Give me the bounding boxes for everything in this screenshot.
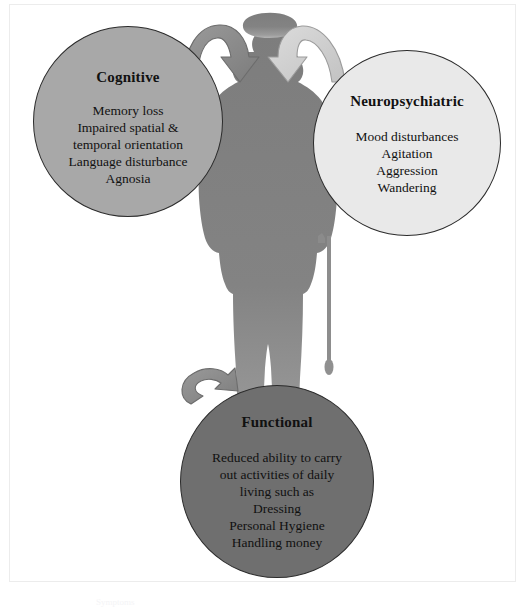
bubble-cognitive-item: temporal orientation bbox=[69, 136, 188, 153]
bubble-neuropsychiatric[interactable]: Neuropsychiatric Mood disturbances Agita… bbox=[313, 50, 501, 236]
bubble-cognitive-title: Cognitive bbox=[96, 69, 159, 86]
bubble-neuropsychiatric-item: Aggression bbox=[355, 162, 458, 179]
bubble-cognitive-item: Impaired spatial & bbox=[69, 119, 188, 136]
bubble-neuropsychiatric-title: Neuropsychiatric bbox=[350, 93, 464, 110]
figure-caption-fragment: Symptoms bbox=[0, 594, 531, 610]
bubble-cognitive-items: Memory loss Impaired spatial & temporal … bbox=[69, 102, 188, 188]
bubble-cognitive-item: Agnosia bbox=[69, 170, 188, 187]
bubble-functional-title: Functional bbox=[241, 414, 312, 431]
bubble-neuropsychiatric-item: Agitation bbox=[355, 145, 458, 162]
bubble-cognitive[interactable]: Cognitive Memory loss Impaired spatial &… bbox=[33, 26, 223, 217]
bubble-functional[interactable]: Functional Reduced ability to carry out … bbox=[180, 385, 374, 578]
bubble-cognitive-item: Memory loss bbox=[69, 102, 188, 119]
bubble-functional-item: Handling money bbox=[212, 534, 342, 551]
bubble-cognitive-item: Language disturbance bbox=[69, 153, 188, 170]
bubble-functional-items: Reduced ability to carry out activities … bbox=[212, 449, 342, 552]
bubble-neuropsychiatric-items: Mood disturbances Agitation Aggression W… bbox=[355, 128, 458, 197]
bubble-functional-item: living such as bbox=[212, 483, 342, 500]
bubble-functional-item: Dressing bbox=[212, 500, 342, 517]
bubble-neuropsychiatric-item: Mood disturbances bbox=[355, 128, 458, 145]
bubble-functional-item: out activities of daily bbox=[212, 466, 342, 483]
walking-cane bbox=[318, 233, 334, 375]
dementia-domains-figure: Cognitive Memory loss Impaired spatial &… bbox=[0, 0, 531, 610]
bubble-neuropsychiatric-item: Wandering bbox=[355, 179, 458, 196]
bubble-functional-item: Personal Hygiene bbox=[212, 517, 342, 534]
bubble-functional-item: Reduced ability to carry bbox=[212, 449, 342, 466]
